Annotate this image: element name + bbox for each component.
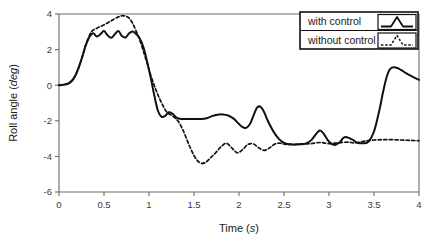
svg-text:Roll angle (deg): Roll angle (deg) bbox=[7, 64, 19, 142]
y-axis-title: Roll angle (deg) bbox=[7, 64, 19, 142]
x-tick-label: 0.5 bbox=[97, 199, 110, 210]
y-axis-unit-text: deg bbox=[7, 67, 19, 86]
x-tick-label: 4 bbox=[416, 199, 421, 210]
chart-figure: 420-2-4-6 00.511.522.533.54 Roll angle (… bbox=[0, 0, 439, 246]
legend-label-without-control: without control bbox=[307, 34, 376, 46]
x-tick-label: 2.5 bbox=[277, 199, 290, 210]
x-axis-title: Time (s) bbox=[219, 222, 259, 234]
roll-angle-line-chart: 420-2-4-6 00.511.522.533.54 Roll angle (… bbox=[0, 0, 439, 246]
y-tick-label: -4 bbox=[44, 151, 52, 162]
y-tick-label: 0 bbox=[47, 80, 52, 91]
legend-label-with-control: with control bbox=[307, 15, 361, 27]
y-tick-label: -2 bbox=[44, 115, 52, 126]
y-axis-ticks: 420-2-4-6 bbox=[44, 8, 59, 197]
chart-legend[interactable]: with control without control bbox=[300, 12, 418, 49]
x-tick-label: 2 bbox=[236, 199, 241, 210]
x-tick-label: 0 bbox=[56, 199, 61, 210]
y-tick-label: -6 bbox=[44, 186, 52, 197]
y-axis-title-text: Roll angle bbox=[7, 93, 19, 142]
x-tick-label: 1.5 bbox=[187, 199, 200, 210]
x-axis-ticks: 00.511.522.533.54 bbox=[56, 192, 421, 210]
x-tick-label: 3 bbox=[326, 199, 331, 210]
svg-text:Time (s): Time (s) bbox=[219, 222, 259, 234]
x-axis-title-text: Time bbox=[219, 222, 243, 234]
y-tick-label: 2 bbox=[47, 44, 52, 55]
x-tick-label: 3.5 bbox=[367, 199, 380, 210]
x-tick-label: 1 bbox=[146, 199, 151, 210]
y-tick-label: 4 bbox=[47, 8, 52, 19]
